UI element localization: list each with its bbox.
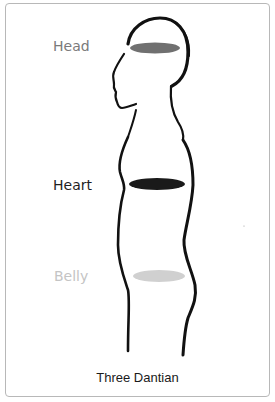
face-profile-outline [113, 54, 136, 108]
body-profile-illustration [0, 0, 275, 402]
torso-front-outline [118, 137, 129, 351]
belly-label: Belly [54, 268, 88, 284]
heart-label: Heart [53, 177, 92, 193]
diagram-caption: Three Dantian [0, 370, 275, 385]
heart-center-ellipse [129, 178, 185, 190]
belly-center-ellipse [133, 270, 185, 282]
head-center-ellipse [130, 43, 180, 54]
neck-back-outline [171, 86, 184, 140]
torso-back-outline [183, 140, 196, 355]
neck-front-outline [128, 110, 136, 137]
head-label: Head [53, 38, 90, 54]
